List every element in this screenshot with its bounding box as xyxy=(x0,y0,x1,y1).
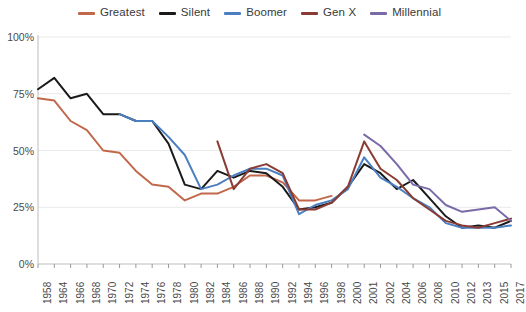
x-axis-tick-label: 1986 xyxy=(238,282,249,304)
x-axis-tick-label: 2013 xyxy=(482,282,493,304)
x-axis-tick-label: 2004 xyxy=(401,282,412,304)
x-axis-tick-label: 2010 xyxy=(450,282,461,304)
x-axis-tick-label: 1998 xyxy=(336,282,347,304)
x-axis-tick-label: 1990 xyxy=(270,282,281,304)
x-axis-tick-label: 1972 xyxy=(124,282,135,304)
x-axis-tick-label: 1968 xyxy=(91,282,102,304)
x-axis-tick-label: 1994 xyxy=(303,282,314,304)
x-axis-tick-label: 2017 xyxy=(515,282,526,304)
x-axis-tick-label: 1958 xyxy=(42,282,53,304)
series-line-gen-x xyxy=(217,141,511,227)
x-axis-tick-label: 1982 xyxy=(205,282,216,304)
x-axis-tick-label: 2015 xyxy=(499,282,510,304)
x-axis-tick-label: 1996 xyxy=(319,282,330,304)
x-axis-tick-label: 1988 xyxy=(254,282,265,304)
x-axis-tick-label: 1966 xyxy=(75,282,86,304)
x-axis-tick-label: 1974 xyxy=(140,282,151,304)
x-axis-tick-label: 2002 xyxy=(385,282,396,304)
x-axis-tick-label: 1976 xyxy=(156,282,167,304)
x-axis-tick-label: 2008 xyxy=(433,282,444,304)
x-axis-tick-label: 1964 xyxy=(58,282,69,304)
x-axis-tick-label: 1992 xyxy=(287,282,298,304)
x-axis-labels: 1958196419661968197019721974197619781980… xyxy=(0,268,519,312)
x-axis-tick-label: 2001 xyxy=(368,282,379,304)
x-axis-tick-label: 2000 xyxy=(352,282,363,304)
x-axis-tick-label: 2006 xyxy=(417,282,428,304)
x-axis-tick-label: 1980 xyxy=(189,282,200,304)
x-axis-tick-label: 1984 xyxy=(221,282,232,304)
x-axis-tick-label: 1978 xyxy=(172,282,183,304)
series-line-silent xyxy=(38,78,511,228)
x-axis-tick-label: 1970 xyxy=(107,282,118,304)
x-axis-tick-label: 2012 xyxy=(466,282,477,304)
